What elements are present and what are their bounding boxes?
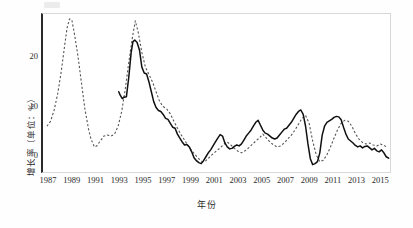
x-tick-2013: 2013 (348, 176, 365, 185)
chart-figure: 01020 增长率（单位：%） 198719891991199319951997… (0, 0, 413, 228)
x-tick-1989: 1989 (63, 176, 80, 185)
x-tick-2011: 2011 (325, 176, 342, 185)
x-tick-2003: 2003 (229, 176, 246, 185)
scan-artifact (44, 2, 60, 8)
x-axis-title: 年份 (0, 198, 413, 211)
x-tick-1991: 1991 (87, 176, 104, 185)
x-tick-2005: 2005 (253, 176, 270, 185)
x-tick-1999: 1999 (182, 176, 199, 185)
x-tick-2007: 2007 (277, 176, 294, 185)
line-chart-canvas (41, 13, 391, 173)
x-tick-2009: 2009 (301, 176, 318, 185)
x-tick-1997: 1997 (158, 176, 175, 185)
x-tick-2001: 2001 (206, 176, 223, 185)
x-tick-1987: 1987 (40, 176, 57, 185)
solid-series-line (119, 40, 389, 165)
x-tick-2015: 2015 (372, 176, 389, 185)
x-axis-tick-labels: 1987198919911993199519971999200120032005… (41, 176, 391, 190)
x-tick-1995: 1995 (135, 176, 152, 185)
x-tick-1993: 1993 (111, 176, 128, 185)
y-axis-title-wrap: 增长率（单位：%） (12, 60, 26, 180)
y-axis-title: 增长率（单位：%） (24, 75, 38, 195)
